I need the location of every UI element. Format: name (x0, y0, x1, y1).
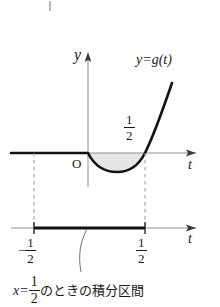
fraction-one-half-right: 1 2 (136, 236, 147, 266)
function-curve-g (11, 83, 172, 172)
caption-rhs: のときの積分区間 (40, 284, 144, 297)
bottom-t-axis-label: t (188, 232, 192, 246)
minus-sign: − (18, 244, 25, 257)
y-axis-label: y (74, 47, 81, 63)
math-figure: y y=g(t) 1 2 O t t − 1 2 1 2 x= 1 2 (0, 0, 220, 307)
top-t-axis-label: t (188, 158, 192, 172)
fraction-denominator: 2 (124, 129, 135, 142)
fraction-denominator: 2 (136, 252, 147, 265)
fraction-denominator: 2 (29, 292, 40, 306)
caption-lhs: x= (13, 284, 29, 298)
fraction-one-half-top: 1 2 (124, 113, 135, 143)
fraction-numerator: 1 (124, 113, 135, 126)
fraction-numerator: 1 (29, 275, 40, 289)
fraction-denominator: 2 (25, 252, 36, 265)
left-tick-label-neg-half: − 1 2 (18, 236, 36, 266)
figure-caption: x= 1 2 のときの積分区間 (13, 275, 144, 307)
fraction-numerator: 1 (25, 236, 36, 249)
fraction-numerator: 1 (136, 236, 147, 249)
upper-half-tick-label: 1 2 (124, 113, 135, 143)
caption-leader-line (80, 229, 87, 272)
fraction-one-half-caption: 1 2 (29, 275, 40, 307)
shaded-integral-region (88, 153, 145, 172)
right-tick-label-half: 1 2 (136, 236, 147, 266)
fraction-one-half-left: 1 2 (25, 236, 36, 266)
curve-label: y=g(t) (136, 53, 172, 67)
origin-label: O (72, 157, 81, 170)
